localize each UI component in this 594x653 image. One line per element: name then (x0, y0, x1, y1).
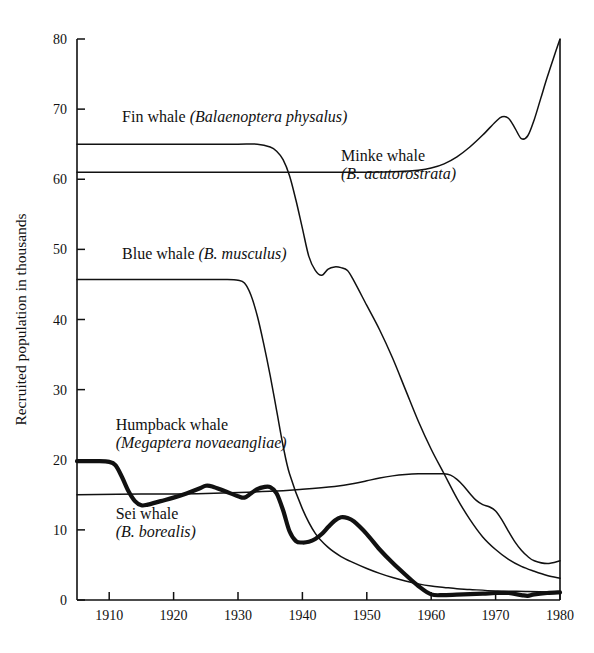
x-tick-label: 1910 (95, 608, 123, 623)
annotation-fin-name: Fin whale (122, 108, 190, 125)
annotation-sei-name: Sei whale (116, 505, 179, 522)
y-axis-title-text: Recruited population in thousands (12, 213, 29, 425)
chart-page: Recruited population in thousands 010203… (0, 0, 594, 653)
x-tick-label: 1930 (224, 608, 252, 623)
y-tick-label: 80 (53, 32, 67, 47)
annotation-humpback-name: Humpback whale (116, 416, 228, 434)
chart-background (0, 0, 594, 653)
x-tick-label: 1970 (482, 608, 510, 623)
y-tick-label: 40 (53, 313, 67, 328)
annotation-sei-species: (B. borealis) (116, 523, 196, 541)
x-tick-label: 1980 (546, 608, 574, 623)
y-axis-title: Recruited population in thousands (12, 213, 29, 425)
annotation-minke-name: Minke whale (341, 147, 425, 164)
y-tick-label: 70 (53, 102, 67, 117)
annotation-fin-species: (Balaenoptera physalus) (190, 108, 348, 126)
y-tick-label: 10 (53, 523, 67, 538)
x-tick-label: 1940 (288, 608, 316, 623)
annotation-minke-species: (B. acutorostrata) (341, 165, 456, 183)
annotation-fin: Fin whale (Balaenoptera physalus) (122, 108, 347, 126)
whale-population-line-chart: Recruited population in thousands 010203… (0, 0, 594, 653)
y-tick-label: 50 (53, 242, 67, 257)
x-tick-label: 1950 (353, 608, 381, 623)
x-tick-label: 1920 (160, 608, 188, 623)
annotation-humpback-species: (Megaptera novaeangliae) (116, 434, 287, 452)
annotation-blue-name: Blue whale (122, 245, 198, 262)
y-tick-label: 60 (53, 172, 67, 187)
y-tick-label: 20 (53, 453, 67, 468)
annotation-blue-species: (B. musculus) (199, 245, 287, 263)
annotation-blue: Blue whale (B. musculus) (122, 245, 286, 263)
y-tick-label: 30 (53, 383, 67, 398)
x-tick-label: 1960 (417, 608, 445, 623)
y-tick-label: 0 (60, 593, 67, 608)
